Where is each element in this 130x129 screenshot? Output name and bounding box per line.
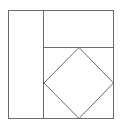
- geometric-diagram: [0, 0, 130, 129]
- inscribed-diamond: [44, 48, 114, 119]
- outer-square: [9, 11, 114, 119]
